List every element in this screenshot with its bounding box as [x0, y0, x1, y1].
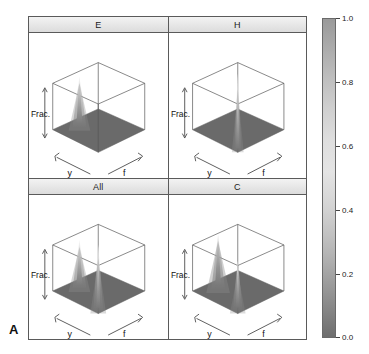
panel-all[interactable]: All: [29, 178, 168, 339]
panel-e[interactable]: E: [29, 17, 168, 178]
panel-title-e: E: [95, 20, 101, 30]
axis-label-y-all: y: [68, 329, 73, 339]
peak-left-e: [69, 76, 91, 130]
colorbar-gradient: [322, 18, 336, 338]
axis-label-frac-h: Frac.: [170, 109, 189, 119]
colorbar-label-4: 0.4: [342, 206, 353, 215]
axis-label-frac-c: Frac.: [170, 270, 189, 280]
scene-e: Frac. y f: [29, 32, 168, 178]
panel-body-c: Frac. y f: [169, 194, 307, 339]
colorbar-label-3: 0.6: [342, 142, 353, 151]
colorbar-label-1: 1.0: [342, 14, 353, 23]
axis-y-all: [55, 314, 90, 335]
panel-strip-c: C: [169, 179, 307, 195]
colorbar-label-2: 0.8: [342, 78, 353, 87]
axis-y-e: [55, 153, 90, 174]
scene-h: Frac. y f: [169, 32, 307, 178]
axis-label-f-e: f: [123, 168, 126, 178]
panel-title-all: All: [93, 182, 104, 192]
panel-strip-e: E: [29, 17, 168, 33]
axis-label-f-c: f: [262, 329, 265, 339]
colorbar-tick-2: [336, 82, 340, 83]
colorbar-tick-3: [336, 146, 340, 147]
figure-letter: A: [9, 322, 18, 337]
surface-plot-h: Frac. y f: [169, 32, 307, 178]
axis-label-f-all: f: [123, 329, 126, 339]
panel-c[interactable]: C: [168, 178, 307, 339]
colorbar-tick-6: [336, 337, 340, 338]
panel-title-h: H: [234, 20, 241, 30]
axis-label-f-h: f: [262, 168, 265, 178]
colorbar-tick-4: [336, 210, 340, 211]
axis-label-y-h: y: [207, 168, 212, 178]
panel-body-e: Frac. y f: [29, 32, 168, 178]
peak-left-c: [206, 234, 230, 293]
panel-strip-all: All: [29, 179, 168, 195]
panel-title-c: C: [234, 182, 241, 192]
axis-label-frac-all: Frac.: [31, 270, 50, 280]
colorbar: 1.0 0.8 0.6 0.4 0.2 0.0: [322, 18, 368, 338]
figure-panel-a: E: [0, 0, 369, 354]
surface-plot-c: Frac. y f: [169, 194, 307, 339]
colorbar-tick-1: [336, 18, 340, 19]
colorbar-label-6: 0.0: [342, 333, 353, 342]
panel-strip-h: H: [169, 17, 307, 33]
axis-label-y-c: y: [207, 329, 212, 339]
peak-left-all: [69, 240, 91, 292]
surface-plot-e: Frac. y f: [29, 32, 168, 178]
axis-label-y-e: y: [68, 168, 73, 178]
colorbar-label-5: 0.2: [342, 270, 353, 279]
panel-h[interactable]: H: [168, 17, 307, 178]
floor-surface-e: [53, 109, 145, 152]
lattice-panel-grid: E: [28, 16, 307, 340]
axis-y-h: [194, 153, 229, 174]
scene-c: Frac. y f: [169, 194, 307, 339]
axis-label-frac-e: Frac.: [31, 109, 50, 119]
panel-body-all: Frac. y f: [29, 194, 168, 339]
colorbar-tick-5: [336, 274, 340, 275]
panel-body-h: Frac. y f: [169, 32, 307, 178]
axis-y-c: [194, 314, 229, 335]
scene-all: Frac. y f: [29, 194, 168, 339]
surface-plot-all: Frac. y f: [29, 194, 168, 339]
